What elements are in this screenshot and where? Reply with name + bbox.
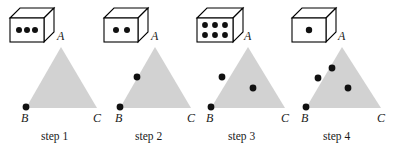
step-label-4: step 4: [323, 131, 350, 143]
vertex-label-B: B: [115, 112, 122, 124]
vertex-label-C: C: [377, 112, 385, 124]
panel-step-2: A B C step 2: [94, 0, 194, 149]
vertex-label-B: B: [301, 112, 308, 124]
triangle-step-2: [94, 0, 194, 120]
vertex-label-A: A: [244, 30, 251, 42]
panel-step-1: A B C step 1: [0, 0, 100, 149]
vertex-label-A: A: [338, 30, 345, 42]
point-1: [219, 74, 226, 81]
point-2: [329, 65, 336, 72]
point-B: [208, 104, 215, 111]
point-B: [23, 104, 30, 111]
step-label-1: step 1: [41, 131, 68, 143]
vertex-label-B: B: [206, 112, 213, 124]
step-label-3: step 3: [228, 131, 255, 143]
chaos-game-figure: A B C step 1 A B C step 2: [0, 0, 398, 149]
step-label-2: step 2: [135, 131, 162, 143]
panel-step-3: A B C step 3: [187, 0, 287, 149]
vertex-label-B: B: [21, 112, 28, 124]
vertex-label-A: A: [57, 30, 64, 42]
point-B: [117, 104, 124, 111]
point-2: [250, 85, 257, 92]
triangle-step-3: [187, 0, 287, 120]
point-1: [134, 74, 141, 81]
vertex-label-A: A: [151, 30, 158, 42]
triangle-step-1: [0, 0, 100, 120]
triangle-step-4: [282, 0, 398, 120]
panel-step-4: A B C step 4: [282, 0, 398, 149]
point-1: [315, 75, 322, 82]
point-3: [345, 85, 352, 92]
point-B: [303, 104, 310, 111]
